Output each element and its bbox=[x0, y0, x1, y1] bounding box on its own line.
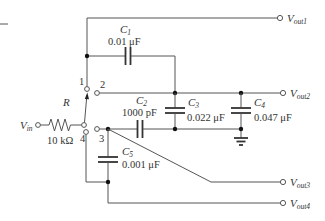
vout3-terminal bbox=[280, 179, 285, 184]
vout3-wire bbox=[108, 129, 280, 182]
capacitor-c3 bbox=[165, 93, 185, 127]
ground-icon bbox=[234, 138, 248, 145]
vout4-label: Vout4 bbox=[290, 197, 310, 211]
vin-label: Vin bbox=[20, 119, 33, 133]
switch-common-terminal bbox=[82, 123, 87, 128]
c3-name: C3 bbox=[188, 96, 199, 110]
vout1-terminal bbox=[277, 15, 282, 20]
c1-value: 0.01 μF bbox=[108, 36, 141, 47]
switch-pos-4-terminal bbox=[84, 130, 89, 135]
switch-pos-3-label: 3 bbox=[99, 133, 104, 144]
c5-value: 0.001 μF bbox=[122, 159, 160, 170]
vout3-label: Vout3 bbox=[290, 176, 310, 190]
junction-dot bbox=[239, 127, 243, 131]
resistor-r bbox=[41, 119, 82, 131]
c2-value: 1000 pF bbox=[122, 107, 157, 118]
c3-value: 0.022 μF bbox=[187, 112, 225, 123]
pos4-wire bbox=[86, 135, 108, 183]
c5-name: C5 bbox=[122, 145, 133, 159]
vout1-wire bbox=[87, 18, 277, 87]
switch-pos-2-label: 2 bbox=[100, 79, 105, 90]
circuit-diagram: Vout1 C1 0.01 μF 1 2 R 10 kΩ Vin Vout2 C… bbox=[0, 0, 325, 221]
resistor-value: 10 kΩ bbox=[47, 135, 73, 146]
junction-dot bbox=[85, 54, 89, 58]
switch-pos-1-terminal bbox=[85, 87, 90, 92]
switch-pos-2-terminal bbox=[95, 91, 100, 96]
vout4-terminal bbox=[280, 200, 285, 205]
resistor-name: R bbox=[62, 96, 70, 108]
c4-name: C4 bbox=[254, 96, 265, 110]
junction-dot bbox=[106, 180, 110, 184]
switch-pos-3-terminal bbox=[95, 127, 100, 132]
vout2-terminal bbox=[280, 90, 285, 95]
capacitor-c4 bbox=[231, 93, 251, 138]
c2-name: C2 bbox=[136, 94, 147, 108]
vout1-label: Vout1 bbox=[287, 12, 307, 26]
vin-terminal bbox=[36, 123, 41, 128]
c1-name: C1 bbox=[120, 23, 131, 37]
switch-arm bbox=[85, 93, 90, 123]
switch-pos-1-label: 1 bbox=[79, 76, 84, 87]
vout2-label: Vout2 bbox=[290, 87, 310, 101]
junction-dot bbox=[173, 127, 177, 131]
c4-value: 0.047 μF bbox=[254, 112, 292, 123]
